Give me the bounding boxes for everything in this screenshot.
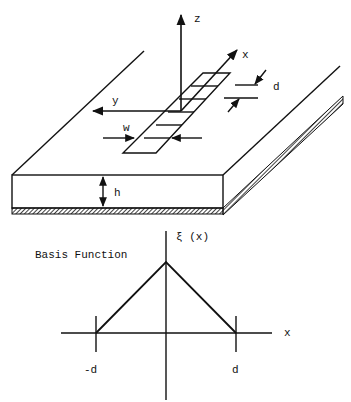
strip-outline bbox=[123, 73, 230, 153]
microstrip bbox=[123, 73, 230, 153]
d-arrow-bottom-icon bbox=[228, 99, 239, 112]
tick-label-pos-d: d bbox=[232, 364, 239, 376]
width-label: w bbox=[123, 122, 130, 134]
d-arrow-top-icon bbox=[255, 70, 266, 84]
diagram-canvas: h z x y w d Basis Function bbox=[0, 0, 351, 402]
substrate-slab bbox=[12, 51, 343, 215]
height-label: h bbox=[114, 187, 121, 199]
basis-function-plot: Basis Function ξ (x) x -d d bbox=[35, 231, 291, 400]
y-axis-label: y bbox=[112, 95, 119, 107]
plot-x-axis-label: x bbox=[284, 327, 291, 339]
cell-length-dimension: d bbox=[224, 70, 280, 112]
ground-plane-side bbox=[223, 96, 343, 215]
x-axis-label: x bbox=[242, 49, 249, 61]
tick-label-neg-d: -d bbox=[84, 364, 97, 376]
d-label: d bbox=[273, 81, 280, 93]
xi-axis-label: ξ (x) bbox=[176, 231, 209, 243]
basis-function-title: Basis Function bbox=[35, 249, 127, 261]
x-axis-arrow-icon bbox=[181, 50, 237, 111]
z-axis-label: z bbox=[194, 13, 201, 25]
ground-plane-front bbox=[12, 208, 223, 214]
coordinate-axes: z x y bbox=[93, 13, 249, 111]
slab-left-edge bbox=[12, 51, 144, 175]
